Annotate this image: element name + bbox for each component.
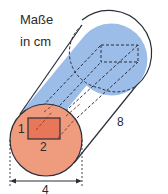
cylinder-diagram: 1 2 8 4 bbox=[0, 0, 168, 194]
rect-height-label: 1 bbox=[18, 122, 25, 136]
diameter-label: 4 bbox=[42, 183, 49, 194]
rect-width-label: 2 bbox=[40, 140, 47, 154]
length-label: 8 bbox=[117, 115, 124, 129]
